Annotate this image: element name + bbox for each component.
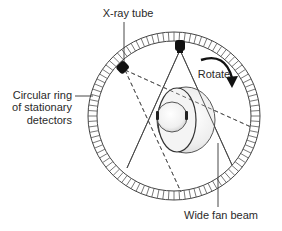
ring-label-line1: Circular ring: [13, 89, 72, 101]
ring-label-line3: detectors: [27, 114, 73, 126]
diagram-canvas: X-ray tube Rotate Circular ring of stati…: [0, 0, 282, 231]
rotate-label: Rotate: [198, 68, 230, 80]
right-ear-icon: [185, 111, 188, 120]
ring-label-line2: of stationary: [12, 101, 72, 113]
left-ear-icon: [156, 111, 159, 120]
xray-tube-label: X-ray tube: [103, 7, 154, 19]
ct-scanner-diagram: X-ray tube Rotate Circular ring of stati…: [0, 0, 282, 231]
xray-tube-icon-left: [115, 60, 130, 75]
patient-head-icon: [125, 50, 251, 192]
xray-tube-icon-top: [175, 40, 185, 53]
fan-beam-label: Wide fan beam: [184, 209, 258, 221]
